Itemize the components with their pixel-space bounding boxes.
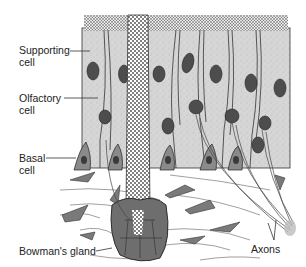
olfactory-epithelium-illustration [0, 0, 306, 267]
fibroblasts [62, 172, 285, 244]
label-axons: Axons [251, 243, 280, 255]
gland-lumen [132, 210, 144, 235]
label-basal-cell: Basalcell [19, 152, 45, 176]
label-supporting-cell: Supportingcell [19, 44, 70, 68]
label-olfactory-cell: Olfactorycell [19, 92, 61, 116]
label-bowmans-gland: Bowman's gland [19, 245, 96, 257]
gland-duct [126, 15, 150, 210]
cilia-layer [84, 15, 288, 31]
axon-bundle [284, 220, 296, 236]
